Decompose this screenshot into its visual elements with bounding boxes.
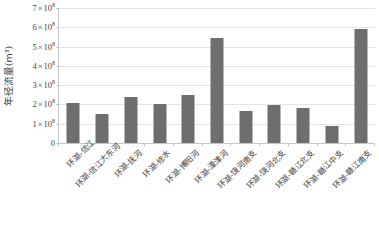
bar[interactable]: [268, 105, 281, 143]
bar[interactable]: [67, 103, 80, 144]
y-axis-tickmark: [56, 66, 59, 67]
y-axis-tick-labels: 01×1082×1083×1084×1085×1086×1087×108: [16, 0, 58, 152]
x-axis-tickmark: [374, 143, 375, 146]
x-axis-tick-label: 环湖-饶河北支: [123, 147, 287, 227]
bar[interactable]: [182, 95, 195, 143]
y-axis-tick-label: 1×108: [32, 119, 55, 129]
y-axis-tick-label: 6×108: [32, 22, 55, 32]
bar-slot: [260, 8, 289, 143]
bar[interactable]: [153, 104, 166, 143]
y-axis-tick-label: 4×108: [32, 61, 55, 71]
y-axis-tick-label: 7×108: [32, 3, 55, 13]
bar[interactable]: [325, 126, 338, 143]
y-axis-tickmark: [56, 8, 59, 9]
x-axis-tickmark: [288, 143, 289, 146]
bar[interactable]: [297, 108, 310, 143]
y-axis-tickmark: [56, 124, 59, 125]
y-axis-tickmark: [56, 104, 59, 105]
x-axis-tickmark: [230, 143, 231, 146]
y-axis-tick-label: 3×108: [32, 80, 55, 90]
bar[interactable]: [124, 97, 137, 143]
bar[interactable]: [239, 111, 252, 143]
x-axis-tickmark: [317, 143, 318, 146]
y-axis-tickmark: [56, 47, 59, 48]
x-axis-tickmark: [259, 143, 260, 146]
plot-area: [58, 8, 375, 144]
bars-layer: [59, 8, 375, 143]
y-axis-tick-label: 5×108: [32, 42, 55, 52]
bar-slot: [346, 8, 375, 143]
bar-slot: [59, 8, 88, 143]
y-axis-tickmark: [56, 27, 59, 28]
x-axis-tick-label: 环湖-信江: [64, 147, 86, 169]
bar-slot: [174, 8, 203, 143]
bar-slot: [116, 8, 145, 143]
x-axis-tick-labels: 环湖-信江环湖-信江大东河环湖-抚河环湖-修水环湖-博阳河环湖-潼津河环湖-饶河…: [58, 147, 374, 227]
y-axis-tick-label: 0: [51, 138, 55, 148]
bar-slot: [203, 8, 232, 143]
x-axis-tickmark: [173, 143, 174, 146]
x-axis-tickmark: [58, 143, 59, 146]
x-axis-tickmark: [345, 143, 346, 146]
y-axis-tickmark: [56, 85, 59, 86]
bar-slot: [231, 8, 260, 143]
bar-slot: [145, 8, 174, 143]
y-axis-tick-label: 2×108: [32, 99, 55, 109]
bar-chart: 年径流量(m³) 01×1082×1083×1084×1085×1086×108…: [0, 0, 379, 227]
bar-slot: [88, 8, 117, 143]
x-axis-tickmark: [144, 143, 145, 146]
y-axis-title-text: 年径流量(m³): [1, 46, 15, 106]
y-axis-title: 年径流量(m³): [0, 0, 16, 152]
bar-slot: [289, 8, 318, 143]
x-axis-tickmark: [202, 143, 203, 146]
bar[interactable]: [210, 38, 223, 143]
bar-slot: [318, 8, 347, 143]
bar[interactable]: [354, 29, 367, 143]
bar[interactable]: [96, 114, 109, 143]
